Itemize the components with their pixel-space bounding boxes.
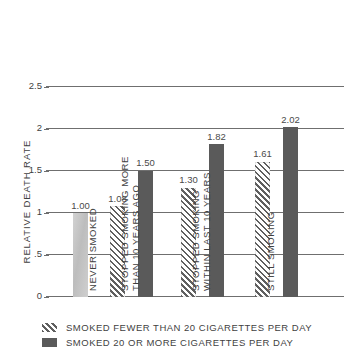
category-label-still-smoking-line1: STILL SMOKING [265, 211, 276, 291]
bar-still-smoking-20-or-more [283, 127, 298, 297]
gridline-2 [46, 128, 344, 129]
relative-death-rate-bar-chart: RELATIVE DEATH RATE 2.5 2 1.5 1 .5 0 1.0… [0, 0, 346, 358]
y-tick-label-2: 2 [22, 122, 42, 133]
gridline-2_5 [46, 86, 344, 87]
legend-label-fewer-than-20: SMOKED FEWER THAN 20 CIGARETTES PER DAY [66, 322, 312, 333]
y-tick-label-1_5: 1.5 [22, 164, 42, 175]
category-label-stopped-more-than-10-years-ago-line1: STOPPED SMOKING MORE [119, 156, 130, 291]
solid-dark-swatch-icon [42, 338, 57, 347]
bar-value-label-5: 1.82 [207, 131, 226, 142]
category-label-never-smoked-line1: NEVER SMOKED [87, 208, 98, 291]
category-label-stopped-within-last-10-years: STOPPED SMOKING WITHIN LAST 10 YEARS [190, 172, 212, 291]
category-label-stopped-within-last-10-years-line1: STOPPED SMOKING [190, 190, 201, 291]
gridline-1_5 [46, 170, 344, 171]
legend-item-fewer-than-20: SMOKED FEWER THAN 20 CIGARETTES PER DAY [42, 320, 342, 335]
y-tick-label-0: 0 [22, 290, 42, 301]
category-label-stopped-more-than-10-years-ago-line2: THAN 10 YEARS AGO [130, 156, 141, 291]
bar-value-label-7: 2.02 [281, 114, 300, 125]
y-tick-label-1: 1 [22, 206, 42, 217]
category-label-stopped-more-than-10-years-ago: STOPPED SMOKING MORE THAN 10 YEARS AGO [119, 156, 141, 291]
y-tick-label-2_5: 2.5 [22, 80, 42, 91]
category-label-still-smoking: STILL SMOKING [265, 211, 276, 291]
bar-value-label-6: 1.61 [253, 148, 272, 159]
category-label-stopped-within-last-10-years-line2: WITHIN LAST 10 YEARS [201, 172, 212, 291]
legend: SMOKED FEWER THAN 20 CIGARETTES PER DAY … [42, 320, 342, 350]
hatched-swatch-icon [42, 323, 57, 332]
bar-never-smoked [73, 213, 88, 297]
legend-label-20-or-more: SMOKED 20 OR MORE CIGARETTES PER DAY [66, 337, 293, 348]
legend-item-20-or-more: SMOKED 20 OR MORE CIGARETTES PER DAY [42, 335, 342, 350]
category-label-never-smoked: NEVER SMOKED [87, 208, 98, 291]
y-tick-label-0_5: .5 [22, 248, 42, 259]
